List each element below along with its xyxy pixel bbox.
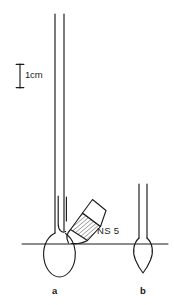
scale-bar: [16, 64, 24, 88]
scale-bar-label: 1cm: [25, 70, 42, 80]
inner-tube-a: [58, 196, 66, 232]
item-label-b: b: [140, 286, 146, 296]
tube-a: [44, 14, 76, 277]
apparatus-drawing: [0, 0, 174, 305]
joint-label: NS 5: [97, 226, 119, 236]
figure-canvas: 1cm NS 5 a b: [0, 0, 174, 305]
item-label-a: a: [52, 286, 57, 296]
tube-b: [134, 184, 153, 273]
ground-glass-joint: [67, 200, 106, 244]
